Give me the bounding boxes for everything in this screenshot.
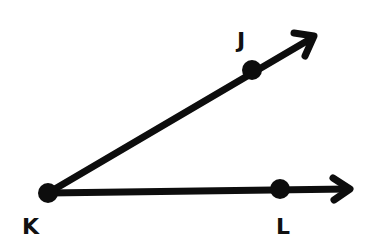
label-j: J — [235, 28, 245, 53]
label-l: L — [276, 214, 290, 239]
ray-kj — [48, 38, 312, 193]
label-k: K — [22, 214, 40, 239]
point-k — [38, 183, 58, 203]
point-j — [242, 60, 262, 80]
ray-kl — [48, 189, 348, 193]
angle-diagram: J K L — [0, 0, 371, 251]
point-l — [270, 179, 290, 199]
